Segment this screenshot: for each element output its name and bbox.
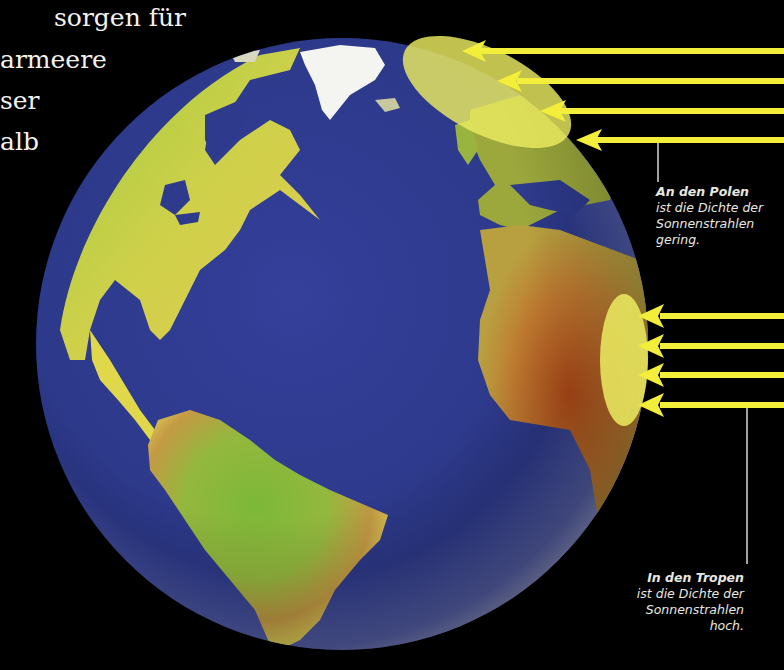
polar-caption-line-1: ist die Dichte der <box>656 200 763 216</box>
polar-ray-1 <box>462 40 784 62</box>
tropical-caption-line-1: ist die Dichte der <box>637 586 744 602</box>
polar-caption: An den Polen ist die Dichte der Sonnenst… <box>656 184 763 248</box>
polar-ray-4 <box>576 129 784 151</box>
polar-ray-2 <box>497 70 784 92</box>
tropical-caption-title: In den Tropen <box>637 570 744 586</box>
tropical-caption-line-2: Sonnenstrahlen <box>637 602 744 618</box>
tropical-ray-4 <box>638 393 784 417</box>
tropical-ray-1 <box>638 304 784 328</box>
tropical-ray-2 <box>638 334 784 358</box>
tropical-caption: In den Tropen ist die Dichte der Sonnens… <box>637 570 744 634</box>
polar-caption-line-3: gering. <box>656 232 763 248</box>
polar-caption-line-2: Sonnenstrahlen <box>656 216 763 232</box>
tropical-ray-3 <box>638 363 784 387</box>
polar-ray-3 <box>540 100 784 122</box>
polar-caption-title: An den Polen <box>656 184 763 200</box>
tropical-caption-line-3: hoch. <box>637 618 744 634</box>
